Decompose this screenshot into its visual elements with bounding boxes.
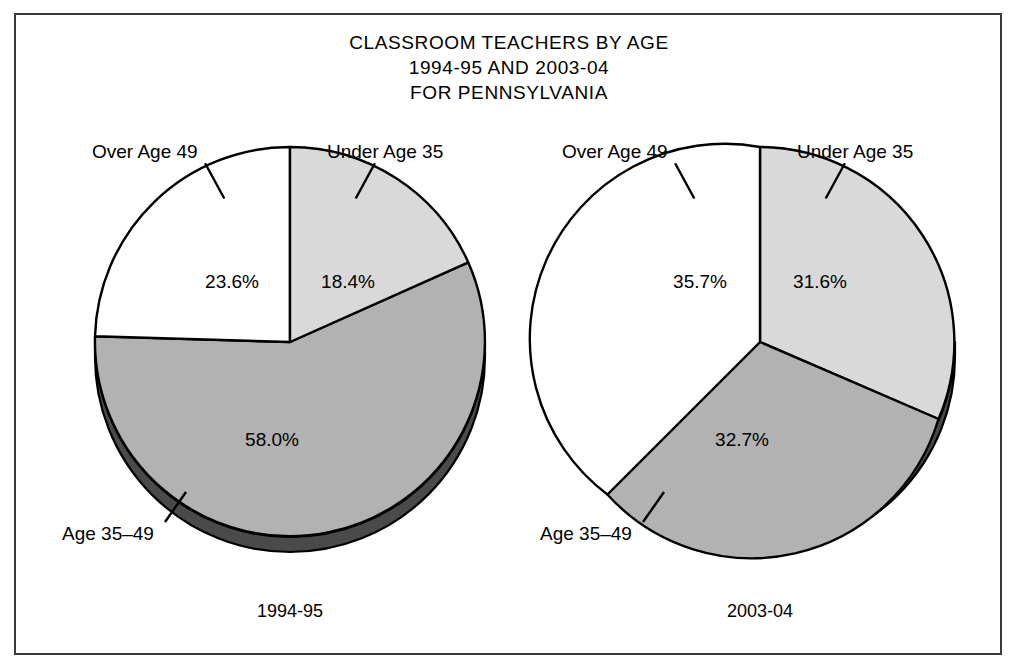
pie1-value-over: 23.6% [205,271,259,292]
pie2-value-middle: 32.7% [715,429,769,450]
pie1-slice-over-age-49[interactable] [95,147,290,342]
pie2-value-under: 31.6% [793,271,847,292]
pie2-label-over-age-49: Over Age 49 [562,141,668,163]
pie1-label-under-age-35: Under Age 35 [327,141,443,163]
pie2-caption-year: 2003-04 [700,601,820,622]
pie1-caption-year: 1994-95 [230,601,350,622]
pie-chart-2003-04: 35.7% 31.6% 32.7% [530,144,955,558]
pie2-label-under-age-35: Under Age 35 [797,141,913,163]
pie1-value-under: 18.4% [321,271,375,292]
figure-root: CLASSROOM TEACHERS BY AGE 1994-95 AND 20… [0,0,1018,670]
pie1-label-age-35-49: Age 35–49 [62,523,154,545]
pie2-value-over: 35.7% [673,271,727,292]
pie1-label-over-age-49: Over Age 49 [92,141,198,163]
pie2-label-age-35-49: Age 35–49 [540,523,632,545]
pie-chart-1994-95: 23.6% 18.4% 58.0% [95,147,485,552]
pie-charts-canvas: 23.6% 18.4% 58.0% 35.7% 31.6% 32.7% [0,0,1018,670]
pie1-value-middle: 58.0% [245,429,299,450]
